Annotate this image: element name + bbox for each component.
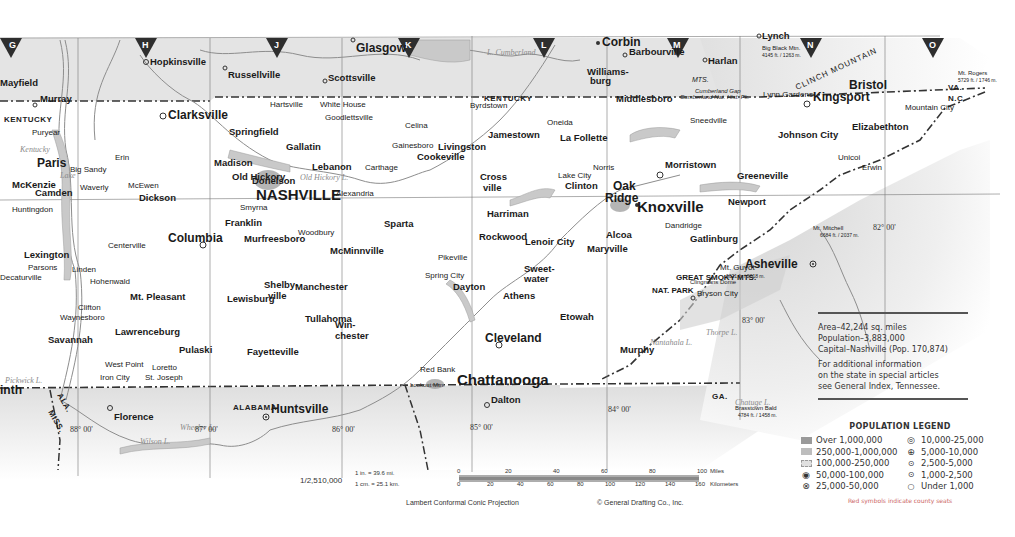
svg-text:Alcoa: Alcoa [606, 229, 633, 240]
svg-text:Springfield: Springfield [229, 126, 279, 137]
svg-text:Smyrna: Smyrna [240, 203, 268, 212]
svg-text:Mountain City: Mountain City [905, 103, 954, 112]
svg-text:Middlesboro: Middlesboro [616, 93, 673, 104]
svg-text:Johnson City: Johnson City [778, 129, 839, 140]
legend-item: ◉ 50,000-100,000 [800, 470, 905, 480]
medium-urban-swatch-icon [801, 448, 812, 455]
svg-text:Big Black Mtn.: Big Black Mtn. [762, 45, 801, 51]
svg-text:Mayfield: Mayfield [0, 77, 38, 88]
svg-text:Livingston: Livingston [438, 141, 486, 152]
svg-text:Scottsville: Scottsville [328, 72, 376, 83]
filled-dot-circle-icon: ◉ [800, 470, 812, 480]
svg-text:Waverly: Waverly [80, 183, 109, 192]
legend-item: ◎ 10,000-25,000 [905, 435, 1000, 445]
svg-text:Iron City: Iron City [100, 373, 130, 382]
svg-text:4145 ft. / 1263 m.: 4145 ft. / 1263 m. [762, 52, 801, 58]
svg-text:Kingsport: Kingsport [813, 90, 870, 104]
svg-text:Clinton: Clinton [565, 180, 598, 191]
svg-text:Linden: Linden [72, 265, 96, 274]
svg-text:Huntingdon: Huntingdon [12, 205, 53, 214]
svg-text:Erwin: Erwin [862, 163, 882, 172]
svg-text:Ridge: Ridge [605, 191, 639, 205]
svg-text:Clingmans Dome: Clingmans Dome [690, 279, 737, 285]
svg-text:ville: ville [483, 182, 502, 193]
svg-text:Elizabethton: Elizabethton [852, 121, 909, 132]
svg-text:Sneedville: Sneedville [690, 116, 727, 125]
svg-text:Morristown: Morristown [665, 159, 716, 170]
svg-text:Parsons: Parsons [28, 263, 57, 272]
svg-text:Greeneville: Greeneville [737, 170, 788, 181]
svg-text:Waynesboro: Waynesboro [60, 313, 105, 322]
svg-text:Clarksville: Clarksville [168, 108, 228, 122]
svg-text:Erin: Erin [115, 153, 129, 162]
svg-text:Bryson City: Bryson City [697, 289, 738, 298]
svg-text:NAT. PARK: NAT. PARK [652, 286, 694, 295]
svg-text:Mt. Mitchell: Mt. Mitchell [813, 225, 843, 231]
light-urban-swatch-icon [801, 460, 812, 467]
svg-text:Mt. Pleasant: Mt. Pleasant [130, 291, 186, 302]
projection-label: Lambert Conformal Conic Projection [406, 499, 519, 506]
scale-km-unit: Kilometers [710, 481, 738, 487]
legend-item: Over 1,000,000 [800, 435, 905, 445]
svg-text:Win-: Win- [335, 319, 356, 330]
svg-text:84° 00': 84° 00' [608, 405, 631, 414]
svg-text:Wilson L.: Wilson L. [140, 437, 170, 446]
legend-item: ⊙ 1,000-2,500 [905, 470, 1000, 480]
svg-text:Dalton: Dalton [491, 394, 521, 405]
svg-text:ville: ville [268, 290, 287, 301]
svg-text:McEwen: McEwen [128, 181, 159, 190]
svg-text:Oneida: Oneida [547, 118, 573, 127]
circle-dot-small-icon: ⊙ [905, 459, 917, 468]
svg-text:Cookeville: Cookeville [417, 151, 465, 162]
svg-text:Shelby-: Shelby- [264, 279, 298, 290]
svg-text:Lake: Lake [59, 171, 76, 180]
svg-text:Fayetteville: Fayetteville [247, 346, 299, 357]
scale-km-conversion: 1 cm. = 25.1 km. [355, 481, 400, 487]
svg-text:Carthage: Carthage [365, 163, 398, 172]
scale-ratio: 1/2,510,000 [300, 476, 342, 485]
population-legend: POPULATION LEGEND Over 1,000,000 ◎ 10,00… [800, 422, 1000, 504]
svg-text:Lookout Mtn.: Lookout Mtn. [410, 382, 445, 388]
svg-text:Decaturville: Decaturville [0, 273, 42, 282]
svg-text:6684 ft. / 2037 m.: 6684 ft. / 2037 m. [820, 232, 859, 238]
svg-text:St. Joseph: St. Joseph [145, 373, 183, 382]
city-chattanooga: Chattanooga [457, 371, 549, 388]
open-circle-icon: ○ [905, 482, 917, 491]
svg-text:Columbia: Columbia [168, 231, 223, 245]
svg-text:Lake City: Lake City [558, 171, 591, 180]
svg-text:Hohenwald: Hohenwald [90, 277, 130, 286]
svg-text:G: G [9, 40, 16, 50]
svg-text:Manchester: Manchester [295, 281, 348, 292]
svg-text:Dickson: Dickson [139, 192, 176, 203]
svg-text:Glasgow: Glasgow [356, 41, 407, 55]
svg-text:Franklin: Franklin [225, 217, 262, 228]
svg-text:VA.: VA. [948, 83, 962, 92]
svg-text:Hartsville: Hartsville [270, 100, 303, 109]
svg-text:4784 ft. / 1458 m.: 4784 ft. / 1458 m. [738, 412, 777, 418]
legend-title: POPULATION LEGEND [800, 422, 1000, 431]
copyright: © General Drafting Co., Inc. [597, 499, 683, 506]
svg-text:Cross: Cross [480, 171, 507, 182]
svg-text:Etowah: Etowah [560, 311, 594, 322]
svg-text:West Point: West Point [105, 360, 144, 369]
svg-text:82° 00': 82° 00' [873, 223, 896, 232]
legend-item: ○ Under 1,000 [905, 481, 1000, 491]
svg-text:La Follette: La Follette [560, 132, 608, 143]
svg-text:Harlan: Harlan [708, 55, 738, 66]
svg-text:White House: White House [320, 100, 366, 109]
svg-text:Gatlinburg: Gatlinburg [690, 233, 738, 244]
svg-text:Centerville: Centerville [108, 241, 146, 250]
svg-text:Nantahala L.: Nantahala L. [649, 338, 692, 347]
population-stat: Population–3,883,000 [818, 333, 968, 344]
svg-text:Pulaski: Pulaski [179, 344, 212, 355]
svg-text:O: O [929, 40, 936, 50]
svg-text:K: K [405, 40, 412, 50]
svg-text:Gainesboro: Gainesboro [392, 141, 434, 150]
svg-text:Murfreesboro: Murfreesboro [244, 233, 305, 244]
svg-text:Red Bank: Red Bank [420, 365, 456, 374]
info-note-2: on the state in special articles [818, 370, 968, 381]
svg-text:Paris: Paris [37, 156, 67, 170]
svg-text:Pikeville: Pikeville [438, 253, 468, 262]
svg-text:Kentucky: Kentucky [19, 145, 50, 154]
svg-text:Old Hickory L.: Old Hickory L. [300, 173, 348, 182]
